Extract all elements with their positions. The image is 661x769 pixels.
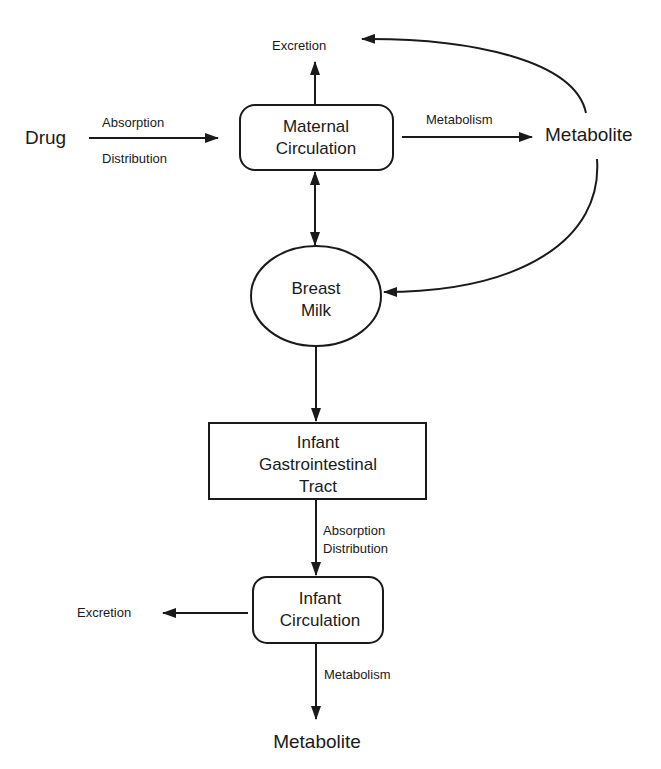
infant-gi-line2: Gastrointestinal — [259, 455, 377, 474]
infant-excretion-label: Excretion — [77, 605, 131, 620]
absorption-label: Absorption — [102, 115, 164, 130]
infant-circulation-line2: Circulation — [280, 611, 360, 630]
maternal-metabolite-label: Metabolite — [545, 124, 633, 145]
arrow-metabolite-to-breast-milk — [384, 159, 597, 292]
distribution-label: Distribution — [102, 151, 167, 166]
infant-circulation-line1: Infant — [299, 589, 342, 608]
flow-diagram: Drug Absorption Distribution Maternal Ci… — [0, 0, 661, 769]
maternal-circulation-line2: Circulation — [276, 139, 356, 158]
maternal-excretion-label: Excretion — [272, 38, 326, 53]
infant-gi-line3: Tract — [299, 477, 337, 496]
infant-metabolite-label: Metabolite — [273, 731, 361, 752]
breast-milk-line2: Milk — [301, 301, 332, 320]
infant-gi-line1: Infant — [297, 433, 340, 452]
maternal-circulation-node — [240, 105, 393, 170]
infant-circulation-node — [253, 577, 383, 643]
breast-milk-line1: Breast — [291, 279, 340, 298]
maternal-circulation-line1: Maternal — [283, 117, 349, 136]
arrow-metabolite-to-excretion — [362, 39, 586, 113]
infant-distribution-label: Distribution — [323, 541, 388, 556]
maternal-metabolism-label: Metabolism — [426, 112, 492, 127]
drug-label: Drug — [25, 127, 66, 148]
infant-absorption-label: Absorption — [323, 523, 385, 538]
infant-metabolism-label: Metabolism — [324, 667, 390, 682]
